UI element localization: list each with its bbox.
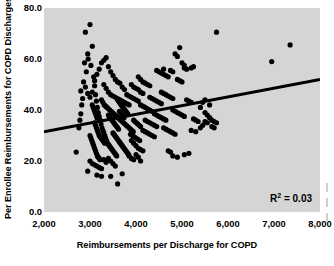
scatter-point xyxy=(94,72,99,77)
scatter-point xyxy=(161,67,166,72)
scatter-point xyxy=(82,60,87,65)
x-axis-label: Reimbursements per Discharge for COPD xyxy=(0,240,334,250)
scatter-point xyxy=(175,155,180,160)
scatter-point xyxy=(88,63,93,68)
scatter-point xyxy=(102,141,107,146)
scatter-point xyxy=(74,149,79,154)
scatter-point xyxy=(138,158,143,163)
scatter-point xyxy=(122,87,127,92)
scatter-point xyxy=(186,151,191,156)
page-edge-mark xyxy=(326,213,328,222)
scatter-point xyxy=(189,128,194,133)
scatter-point xyxy=(214,30,219,35)
x-axis-tick-labels: 2,0003,0004,0005,0006,0007,0008,000 xyxy=(0,218,334,232)
scatter-point xyxy=(83,30,88,35)
y-axis-tick-label: 0.0 xyxy=(14,207,42,217)
scatter-point xyxy=(108,174,113,179)
scatter-point xyxy=(94,98,99,103)
x-axis-tick-label: 3,000 xyxy=(67,218,113,230)
x-axis-tick-label: 7,000 xyxy=(251,218,297,230)
scatter-point xyxy=(106,64,111,69)
scatter-point xyxy=(131,157,136,162)
scatter-point xyxy=(116,127,121,132)
scatter-chart-figure: Per Enrollee Reimbursements for COPD Dis… xyxy=(0,0,334,266)
y-axis-tick-labels: 0.020.040.060.080.0 xyxy=(12,0,42,220)
scatter-point xyxy=(212,125,217,130)
plot-area: R2 = 0.03 xyxy=(44,8,320,212)
scatter-point xyxy=(140,91,145,96)
scatter-point xyxy=(154,124,159,129)
data-layer xyxy=(44,8,320,212)
x-axis-tick-label: 6,000 xyxy=(205,218,251,230)
scatter-point xyxy=(159,101,164,106)
scatter-point xyxy=(166,74,171,79)
scatter-point xyxy=(127,102,132,107)
scatter-point xyxy=(83,84,88,89)
scatter-point xyxy=(163,118,168,123)
scatter-point xyxy=(80,96,85,101)
scatter-point xyxy=(97,67,102,72)
r-squared-annotation: R2 = 0.03 xyxy=(270,192,312,204)
x-axis-tick-label: 4,000 xyxy=(113,218,159,230)
scatter-point xyxy=(182,152,187,157)
scatter-point xyxy=(138,124,143,129)
scatter-point xyxy=(85,51,90,56)
scatter-point xyxy=(115,181,120,186)
scatter-point xyxy=(196,119,201,124)
x-axis-tick-label: 5,000 xyxy=(159,218,205,230)
scatter-point xyxy=(84,69,89,74)
scatter-point xyxy=(152,134,157,139)
scatter-point xyxy=(79,102,84,107)
scatter-point xyxy=(94,115,99,120)
page-edge-mark xyxy=(326,198,328,207)
scatter-point xyxy=(207,102,212,107)
scatter-point xyxy=(90,44,95,49)
y-axis-tick-label: 20.0 xyxy=(14,156,42,166)
r-squared-value: = 0.03 xyxy=(281,193,312,204)
scatter-point xyxy=(182,114,187,119)
scatter-point xyxy=(177,45,182,50)
scatter-point xyxy=(114,153,119,158)
scatter-point xyxy=(173,132,178,137)
scatter-point xyxy=(170,96,175,101)
scatter-point xyxy=(126,152,131,157)
scatter-point xyxy=(170,153,175,158)
scatter-point xyxy=(92,78,97,83)
scatter-point xyxy=(288,42,293,47)
scatter-point xyxy=(120,171,125,176)
scatter-point xyxy=(205,120,210,125)
scatter-point xyxy=(191,64,196,69)
scatter-point xyxy=(87,95,92,100)
scatter-point xyxy=(90,90,95,95)
scatter-point xyxy=(182,63,187,68)
scatter-point xyxy=(78,111,83,116)
page-edge-mark xyxy=(326,183,328,192)
y-axis-tick-label: 80.0 xyxy=(14,3,42,13)
scatter-point xyxy=(175,54,180,59)
scatter-point xyxy=(214,120,219,125)
scatter-point xyxy=(78,88,83,93)
y-axis-tick-label: 60.0 xyxy=(14,54,42,64)
scatter-point xyxy=(92,83,97,88)
x-axis-tick-label: 2,000 xyxy=(21,218,67,230)
scatter-point xyxy=(147,83,152,88)
scatter-point xyxy=(179,79,184,84)
scatter-point xyxy=(94,172,99,177)
y-axis-tick-label: 40.0 xyxy=(14,105,42,115)
scatter-point xyxy=(104,55,109,60)
scatter-point xyxy=(85,169,90,174)
scatter-point xyxy=(137,138,142,143)
scatter-point xyxy=(193,129,198,134)
scatter-point xyxy=(99,166,104,171)
scatter-point xyxy=(140,148,145,153)
page-edge-marks xyxy=(326,183,332,227)
scatter-point xyxy=(113,164,118,169)
scatter-point xyxy=(87,22,92,27)
scatter-point xyxy=(81,79,86,84)
scatter-point xyxy=(168,68,173,73)
scatter-point xyxy=(77,118,82,123)
scatter-point xyxy=(269,59,274,64)
scatter-point xyxy=(86,56,91,61)
scatter-point xyxy=(99,174,104,179)
scatter-point xyxy=(198,105,203,110)
